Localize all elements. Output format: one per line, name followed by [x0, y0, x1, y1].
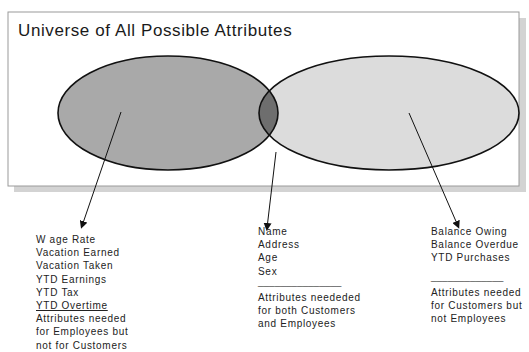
attr-item: Age — [258, 251, 361, 264]
attr-item: Name — [258, 225, 361, 238]
caption-line: for Customers but — [431, 299, 522, 312]
separator: _______________ — [258, 278, 361, 286]
caption-line: Attributes needed — [431, 286, 522, 299]
attr-item: YTD Overtime — [36, 299, 129, 312]
caption-line: and Employees — [258, 317, 361, 330]
customers-only-attributes: Balance Owing Balance Overdue YTD Purcha… — [431, 225, 522, 325]
employees-only-attributes: W age Rate Vacation Earned Vacation Take… — [36, 233, 129, 352]
caption-line: not Employees — [431, 312, 522, 325]
caption-line: for both Customers — [258, 304, 361, 317]
attr-item: Balance Owing — [431, 225, 522, 238]
attr-item: W age Rate — [36, 233, 129, 246]
caption-line: for Employees but — [36, 325, 129, 338]
attr-item: Address — [258, 238, 361, 251]
diagram-title: Universe of All Possible Attributes — [18, 21, 292, 41]
both-attributes: Name Address Age Sex _______________ Att… — [258, 225, 361, 330]
caption-line: Attributes needed — [36, 312, 129, 325]
attr-item: YTD Earnings — [36, 273, 129, 286]
separator: _____________ — [431, 273, 522, 281]
attr-item: Balance Overdue — [431, 238, 522, 251]
attr-item: YTD Tax — [36, 286, 129, 299]
caption-line: Attributes neededed — [258, 291, 361, 304]
attr-item: YTD Purchases — [431, 251, 522, 264]
caption-line: not for Customers — [36, 339, 129, 352]
attr-item: Vacation Earned — [36, 246, 129, 259]
attr-item: Vacation Taken — [36, 259, 129, 272]
